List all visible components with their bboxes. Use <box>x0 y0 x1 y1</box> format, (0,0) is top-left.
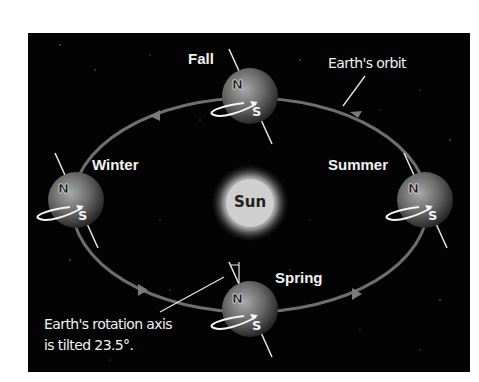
earth-summer <box>386 153 453 248</box>
sun-label: Sun <box>234 193 266 211</box>
winter-south-pole-label: S <box>78 208 87 223</box>
fall-south-pole-label: S <box>252 104 261 119</box>
winter-north-pole-label: N <box>58 181 69 196</box>
orbit-label: Earth's orbit <box>328 55 406 71</box>
spring-north-pole-label: N <box>232 291 243 306</box>
orbit-label-pointer <box>343 76 365 106</box>
season-label-summer: Summer <box>328 156 388 173</box>
spring-south-pole-label: S <box>252 318 261 333</box>
tilt-annotation-line1: Earth's rotation axis <box>44 316 172 332</box>
season-label-spring: Spring <box>275 269 323 286</box>
fall-north-pole-label: N <box>232 77 243 92</box>
summer-north-pole-label: N <box>408 181 419 196</box>
earth-fall <box>211 49 278 144</box>
tilt-annotation-line2: is tilted 23.5°. <box>44 337 133 353</box>
summer-south-pole-label: S <box>428 208 437 223</box>
season-label-winter: Winter <box>92 156 139 173</box>
season-label-fall: Fall <box>188 50 214 67</box>
